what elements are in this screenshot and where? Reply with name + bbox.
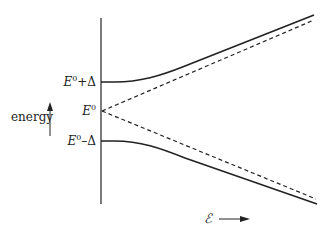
lower-solid-curve: [101, 141, 317, 204]
field-axis-label: ℰ: [204, 211, 213, 226]
label-upper-level: E0+Δ: [62, 74, 96, 89]
label-lower-level: E0–Δ: [66, 133, 96, 148]
upper-solid-curve: [101, 15, 314, 82]
lower-dashed-asymptote: [102, 111, 316, 199]
label-middle-level: E0: [81, 103, 96, 118]
up-arrow-icon: [47, 102, 53, 111]
energy-level-diagram: E0+Δ E0 E0–Δ energy ℰ: [0, 0, 331, 237]
upper-dashed-asymptote: [102, 20, 314, 111]
energy-axis-label: energy: [11, 110, 53, 124]
right-arrow-icon: [240, 216, 250, 222]
